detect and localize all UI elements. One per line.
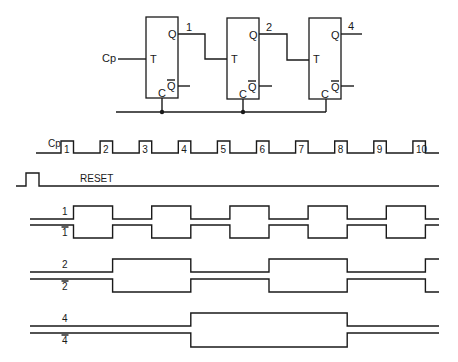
waveform-4-bar bbox=[30, 333, 439, 347]
clock-pulse-number: 9 bbox=[377, 144, 383, 155]
ff2-t-label: T bbox=[231, 53, 238, 65]
circuit-schematic: Cp T Q Q C 1 T Q Q C 2 T bbox=[102, 17, 362, 114]
ff2-qbar-label: Q bbox=[248, 81, 257, 93]
waveform-4 bbox=[30, 313, 439, 326]
ff3-q-label: Q bbox=[331, 29, 340, 41]
clock-input-label: Cp bbox=[102, 52, 116, 64]
ff1-t-label: T bbox=[150, 53, 157, 65]
flip-flop-1: T Q Q C 1 bbox=[146, 17, 192, 99]
clock-pulse-number: 4 bbox=[181, 144, 187, 155]
ff1-q-label: Q bbox=[168, 28, 177, 40]
ff1-junction-dot bbox=[160, 110, 164, 114]
waveform-label: 4 bbox=[62, 313, 68, 324]
waveform-2-bar bbox=[30, 279, 439, 292]
ff3-t-label: T bbox=[313, 53, 320, 65]
ff1-c-label: C bbox=[158, 87, 166, 99]
ff1-to-ff2-wire bbox=[178, 34, 227, 59]
waveform-2 bbox=[30, 259, 439, 272]
ff1-output-name: 1 bbox=[186, 21, 192, 33]
ff3-output-name: 4 bbox=[348, 20, 354, 32]
ff3-c-label: C bbox=[321, 88, 329, 100]
counter-diagram: Cp T Q Q C 1 T Q Q C 2 T bbox=[0, 0, 458, 362]
ff2-output-name: 2 bbox=[266, 21, 272, 33]
ff2-junction-dot bbox=[241, 110, 245, 114]
clock-pulse-number: 8 bbox=[338, 144, 344, 155]
clock-pulse-number: 3 bbox=[142, 144, 148, 155]
flip-flop-2: T Q Q C 2 bbox=[227, 18, 272, 100]
ff1-qbar-label: Q bbox=[167, 80, 176, 92]
timing-diagram: Cp 12345678910 RESET 112244 bbox=[16, 138, 439, 347]
clock-pulse-number: 1 bbox=[64, 144, 70, 155]
clock-label: Cp bbox=[48, 138, 61, 149]
clock-pulse-number: 7 bbox=[299, 144, 305, 155]
waveform-1 bbox=[30, 206, 439, 219]
ff2-c-label: C bbox=[239, 88, 247, 100]
waveform-label: 1 bbox=[62, 206, 68, 217]
output-waveforms: 112244 bbox=[30, 206, 439, 347]
waveform-1-bar bbox=[30, 225, 439, 238]
ff2-to-ff3-wire bbox=[259, 34, 309, 60]
reset-label: RESET bbox=[80, 173, 113, 184]
waveform-label: 2 bbox=[62, 259, 68, 270]
flip-flop-3: T Q Q C 4 bbox=[309, 18, 362, 100]
ff3-qbar-label: Q bbox=[331, 81, 340, 93]
clock-pulse-number: 10 bbox=[416, 144, 428, 155]
waveform-label: 4 bbox=[62, 335, 68, 346]
waveform-label: 1 bbox=[62, 227, 68, 238]
clock-pulse-number: 5 bbox=[220, 144, 226, 155]
ff2-q-label: Q bbox=[249, 29, 258, 41]
clock-pulse-number: 6 bbox=[260, 144, 266, 155]
waveform-label: 2 bbox=[62, 281, 68, 292]
clock-pulse-number: 2 bbox=[103, 144, 109, 155]
